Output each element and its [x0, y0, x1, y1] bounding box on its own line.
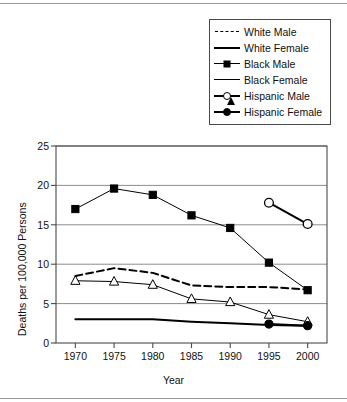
plot-frame	[56, 146, 327, 343]
x-axis-tick-label: 2000	[296, 350, 319, 362]
x-axis-tick-label: 1995	[257, 350, 280, 362]
data-point-marker	[110, 185, 117, 192]
series-line-hispanic-male	[269, 203, 308, 224]
x-axis-tick-label: 1990	[219, 350, 242, 362]
data-point-marker	[71, 276, 80, 285]
y-axis-tick-label: 15	[25, 219, 49, 231]
data-point-marker	[304, 322, 312, 330]
series-line-white-male	[75, 268, 307, 289]
plot-area: 05101520251970197519801985199019952000 D…	[0, 0, 347, 402]
y-axis-title: Deaths per 100,000 Persons	[16, 202, 28, 336]
x-axis-title: Year	[0, 374, 347, 386]
x-axis-tick-label: 1975	[102, 350, 125, 362]
x-axis-tick-label: 1985	[180, 350, 203, 362]
x-axis-tick-label: 1970	[64, 350, 87, 362]
data-point-marker	[265, 259, 272, 266]
y-axis-tick-label: 20	[25, 179, 49, 191]
y-axis-tick-label: 0	[25, 337, 49, 349]
data-point-marker	[109, 277, 118, 286]
x-axis-tick-label: 1980	[141, 350, 164, 362]
data-point-marker	[265, 198, 274, 207]
data-point-marker	[265, 320, 273, 328]
y-axis-tick-label: 10	[25, 258, 49, 270]
y-axis-tick-label: 5	[25, 298, 49, 310]
figure-container: White Male White Female Black Male Black…	[0, 0, 347, 402]
data-point-marker	[188, 212, 195, 219]
y-axis-tick-label: 25	[25, 140, 49, 152]
chart-canvas	[0, 0, 347, 402]
data-point-marker	[227, 224, 234, 231]
data-point-marker	[149, 191, 156, 198]
data-point-marker	[303, 220, 312, 229]
data-point-marker	[304, 287, 311, 294]
data-point-marker	[72, 205, 79, 212]
